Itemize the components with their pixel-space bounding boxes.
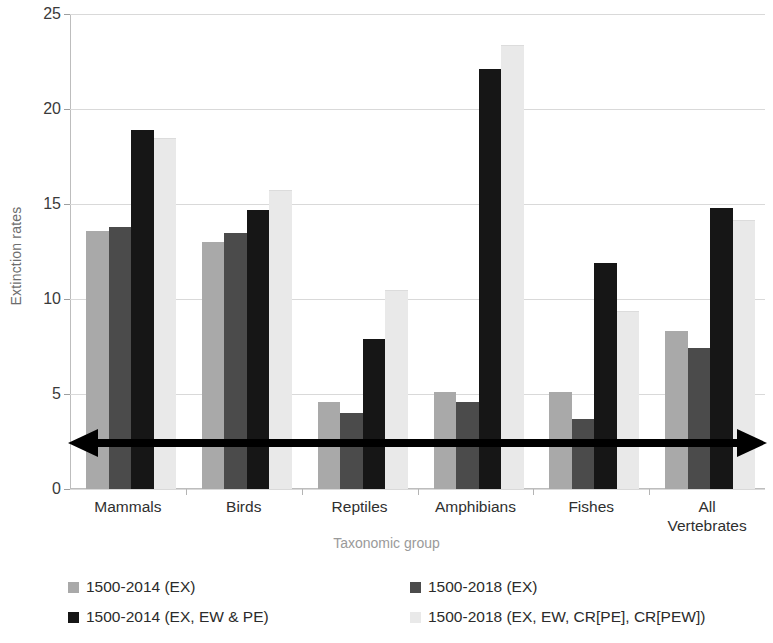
legend-label: 1500-2018 (EX, EW, CR[PE], CR[PEW]) (428, 608, 705, 626)
y-tick-label: 20 (15, 101, 61, 117)
legend-item[interactable]: 1500-2014 (EX, EW & PE) (68, 608, 269, 626)
legend-swatch-icon (410, 612, 421, 623)
double-headed-arrow-icon (68, 421, 769, 465)
chart-legend: 1500-2014 (EX)1500-2018 (EX)1500-2014 (E… (0, 576, 773, 640)
legend-label: 1500-2014 (EX) (86, 578, 195, 596)
x-tick-label: Reptiles (302, 497, 418, 516)
y-tick-label: 15 (15, 196, 61, 212)
y-tick-mark (64, 489, 70, 490)
x-tick-label-line: Fishes (533, 497, 649, 516)
x-tick-label: AllVertebrates (649, 497, 765, 535)
x-axis-separator (418, 489, 419, 495)
y-tick-label: 0 (15, 481, 61, 497)
x-tick-label-line: All (649, 497, 765, 516)
x-tick-label-line: Amphibians (418, 497, 534, 516)
legend-label: 1500-2018 (EX) (428, 578, 537, 596)
legend-swatch-icon (68, 582, 79, 593)
x-axis-separator (302, 489, 303, 495)
legend-swatch-icon (68, 612, 79, 623)
plot-area (70, 14, 765, 489)
legend-swatch-icon (410, 582, 421, 593)
legend-item[interactable]: 1500-2014 (EX) (68, 578, 195, 596)
legend-item[interactable]: 1500-2018 (EX, EW, CR[PE], CR[PEW]) (410, 608, 705, 626)
x-tick-label-line: Birds (186, 497, 302, 516)
x-tick-label-line: Vertebrates (649, 516, 765, 535)
x-axis-separator (533, 489, 534, 495)
legend-item[interactable]: 1500-2018 (EX) (410, 578, 537, 596)
y-tick-label: 5 (15, 386, 61, 402)
y-tick-label: 25 (15, 6, 61, 22)
y-axis-title: Extinction rates (8, 156, 24, 356)
x-tick-label-line: Reptiles (302, 497, 418, 516)
x-axis-separator (649, 489, 650, 495)
y-tick-label: 10 (15, 291, 61, 307)
x-tick-label: Mammals (70, 497, 186, 516)
x-tick-label: Birds (186, 497, 302, 516)
extinction-rates-bar-chart: Extinction rates 0510152025 MammalsBirds… (0, 0, 773, 643)
x-axis-title: Taxonomic group (0, 535, 773, 551)
legend-label: 1500-2014 (EX, EW & PE) (86, 608, 269, 626)
x-axis-separator (186, 489, 187, 495)
x-tick-label-line: Mammals (70, 497, 186, 516)
x-tick-label: Fishes (533, 497, 649, 516)
annotation-arrow-layer (70, 14, 765, 489)
x-tick-label: Amphibians (418, 497, 534, 516)
